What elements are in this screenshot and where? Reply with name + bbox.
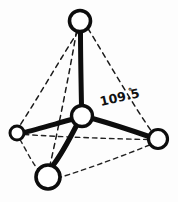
- edge-apex-left-line: [20, 31, 79, 126]
- edge-left-bottom-line: [20, 140, 39, 171]
- atom-left: [10, 126, 24, 140]
- tetrahedron-svg: 109.5 °: [0, 0, 178, 202]
- bond-center-right-line: [93, 119, 150, 137]
- edge-right-bottom-line: [61, 145, 150, 177]
- atom-center: [72, 106, 93, 127]
- bond-center-bottom-line: [53, 126, 77, 167]
- tetrahedron-figure: 109.5 °: [0, 0, 178, 202]
- edge-apex-right-line: [88, 29, 152, 133]
- edge-left-right-line: [25, 135, 149, 140]
- bond-center-left-line: [24, 120, 72, 133]
- bond-center-apex-line: [81, 32, 82, 106]
- atom-apex: [70, 11, 91, 32]
- atom-bottom-front: [36, 165, 60, 189]
- atom-right: [149, 130, 168, 149]
- tetrahedron-edges-group: [20, 29, 153, 178]
